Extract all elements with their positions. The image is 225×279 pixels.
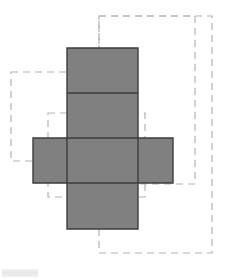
watermark-bar <box>2 269 38 277</box>
cube-net-group <box>33 48 173 229</box>
geometry-figure <box>0 0 225 279</box>
net-horizontal-arm-fill <box>33 138 173 183</box>
diagram-canvas <box>0 0 225 279</box>
